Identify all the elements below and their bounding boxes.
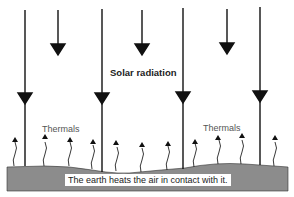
diagram-canvas [0,0,294,197]
thermals-label-left: Thermals [42,124,80,134]
short-solar-arrows [51,9,234,55]
solar-radiation-label: Solar radiation [110,67,177,78]
thermal-arrowheads [12,133,278,147]
earth-caption: The earth heats the air in contact with … [65,174,231,186]
thermals-label-right: Thermals [203,123,241,133]
